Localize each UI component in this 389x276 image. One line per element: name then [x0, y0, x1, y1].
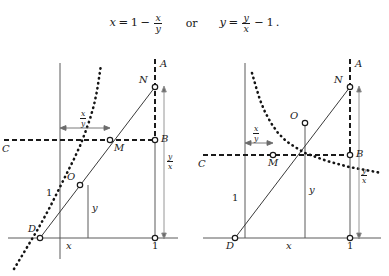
point-O: [302, 120, 307, 125]
point-B: [152, 137, 157, 142]
label-M: M: [114, 143, 124, 153]
ratio-denominator: y: [81, 120, 85, 128]
ratio-denominator: x: [168, 163, 172, 171]
point-D: [37, 235, 42, 240]
arrow-y-over-x: [357, 86, 362, 239]
point-N: [347, 84, 352, 89]
equation-left-fraction-numerator: x: [155, 13, 162, 23]
equation-left: x = 1 − x y: [110, 13, 164, 34]
label-ratio-x-over-y: x y: [80, 110, 86, 127]
equation-left-fraction-denominator: y: [155, 24, 162, 34]
label-y-segment: y: [92, 203, 98, 213]
label-D: D: [28, 224, 36, 234]
label-unit-vertical: 1: [232, 193, 238, 203]
equation-left-minus: −: [138, 17, 153, 29]
label-unit-baseline: 1: [152, 241, 158, 251]
label-B: B: [356, 149, 363, 159]
secant-line-DN: [40, 87, 155, 238]
arrow-x-over-y: [245, 141, 273, 146]
ratio-denominator: x: [362, 177, 366, 185]
equation-connector: or: [164, 17, 220, 30]
ratio-numerator: y: [168, 153, 172, 161]
arrow-y-over-x: [162, 86, 167, 239]
label-O: O: [290, 111, 298, 121]
figure-page: x = 1 − x y or y = y x − 1 .: [0, 0, 389, 276]
ratio-numerator: x: [81, 110, 85, 118]
equation-right: y = y x − 1 .: [220, 13, 280, 34]
label-unit-baseline: 1: [347, 241, 353, 251]
label-y-segment: y: [309, 185, 315, 195]
point-N: [152, 84, 157, 89]
label-ratio-y-over-x: y x: [167, 153, 173, 170]
label-B: B: [161, 134, 168, 144]
label-x-baseline: x: [286, 241, 292, 251]
point-B: [347, 152, 352, 157]
ratio-numerator: y: [362, 167, 366, 175]
label-O: O: [67, 172, 75, 182]
figure-left: A N B C M O D 1 1 x y x y y x: [0, 45, 194, 276]
equation-right-one: 1: [266, 17, 273, 29]
equation-right-minus: −: [252, 17, 267, 29]
figure-right: A N O B C M D 1 1 x y x y y x: [195, 45, 389, 276]
point-O: [77, 182, 82, 187]
ratio-denominator: y: [254, 135, 258, 143]
label-ratio-y-over-x: y x: [361, 167, 367, 184]
equation-right-equals: =: [226, 17, 241, 29]
figure-right-canvas: [195, 45, 389, 276]
label-C: C: [2, 144, 10, 154]
equation-right-fraction-numerator: y: [243, 13, 250, 23]
label-D: D: [226, 241, 234, 251]
equation-right-fraction-denominator: x: [243, 24, 250, 34]
label-N: N: [139, 75, 148, 85]
equation-left-fraction: x y: [154, 13, 162, 34]
ratio-numerator: x: [254, 125, 258, 133]
equation-left-equals: =: [116, 17, 131, 29]
equation-left-one: 1: [131, 17, 138, 29]
equation-line: x = 1 − x y or y = y x − 1 .: [0, 6, 389, 40]
label-C: C: [198, 159, 206, 169]
point-M: [107, 137, 112, 142]
label-unit-vertical: 1: [46, 188, 52, 198]
label-N: N: [334, 75, 343, 85]
label-ratio-x-over-y: x y: [253, 125, 259, 142]
label-x-baseline: x: [66, 241, 72, 251]
figure-left-canvas: [0, 45, 194, 276]
label-M: M: [268, 158, 278, 168]
label-A: A: [355, 59, 362, 69]
equation-right-fraction: y x: [242, 13, 250, 34]
label-A: A: [160, 59, 167, 69]
equation-period: .: [274, 17, 280, 29]
